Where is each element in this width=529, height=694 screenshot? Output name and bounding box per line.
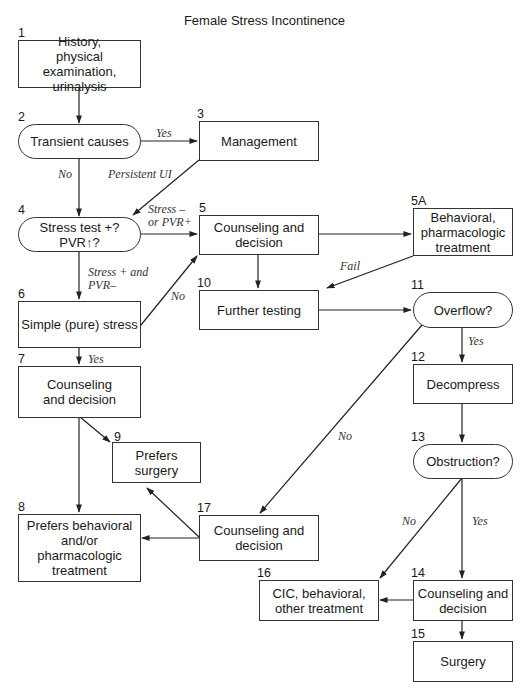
node-9-prefers-surgery: Prefers surgery <box>112 442 201 483</box>
node-7-counseling: Counseling and decision <box>18 366 141 418</box>
node-10-number: 10 <box>197 276 211 290</box>
edge-label-13-16: No <box>402 515 416 528</box>
edge-label-5a-10: Fail <box>340 260 360 273</box>
edge-label-2-4: No <box>58 168 72 181</box>
node-7-number: 7 <box>18 352 25 366</box>
node-17-number: 17 <box>197 501 211 515</box>
edge-13-16 <box>380 478 462 578</box>
edge-label-11-17: No <box>338 430 352 443</box>
node-11-number: 11 <box>411 278 424 292</box>
edge-11-17 <box>260 325 422 513</box>
node-12-number: 12 <box>411 350 425 364</box>
node-14-number: 14 <box>411 566 425 580</box>
node-16-cic-behavioral: CIC, behavioral, other treatment <box>259 580 379 621</box>
node-12-decompress: Decompress <box>413 364 513 404</box>
node-4-stress-test: Stress test +? PVR↑? <box>18 217 141 252</box>
edge-17-9 <box>147 488 199 537</box>
node-13-obstruction: Obstruction? <box>413 444 513 479</box>
node-8-prefers-behavioral: Prefers behavioral and/or pharmacologic … <box>18 514 141 582</box>
node-5-counseling: Counseling and decision <box>199 215 319 255</box>
edge-label-6-7: Yes <box>88 353 104 366</box>
node-10-further-testing: Further testing <box>199 290 319 330</box>
edge-label-13-14: Yes <box>472 515 488 528</box>
node-15-surgery: Surgery <box>413 641 513 682</box>
node-17-counseling: Counseling and decision <box>199 515 319 561</box>
edge-label-4-6: Stress + and PVR– <box>88 266 148 292</box>
node-3-number: 3 <box>197 107 204 121</box>
edge-7-9 <box>80 417 110 442</box>
node-6-simple-stress: Simple (pure) stress <box>18 301 141 348</box>
node-3-management: Management <box>199 121 319 161</box>
edge-label-6-5: No <box>171 290 185 303</box>
edge-label-3-4: Persistent UI <box>108 168 172 181</box>
edge-label-2-3: Yes <box>156 127 172 140</box>
edge-label-4-5: Stress – or PVR+ <box>148 203 192 229</box>
node-2-transient-causes: Transient causes <box>18 124 141 159</box>
node-5a-number: 5A <box>411 194 426 208</box>
node-14-counseling: Counseling and decision <box>413 580 513 621</box>
node-13-number: 13 <box>411 430 425 444</box>
node-5a-behavioral-treatment: Behavioral, pharmacologic treatment <box>413 208 513 256</box>
node-5-number: 5 <box>199 201 206 215</box>
node-6-number: 6 <box>18 287 25 301</box>
node-15-number: 15 <box>411 627 425 641</box>
edge-label-11-12: Yes <box>468 335 484 348</box>
node-1-history-exam: History, physical examination, urinalysi… <box>18 40 141 88</box>
node-2-number: 2 <box>18 110 25 124</box>
node-11-overflow: Overflow? <box>413 292 513 328</box>
node-16-number: 16 <box>257 566 271 580</box>
node-4-number: 4 <box>18 203 25 217</box>
node-8-number: 8 <box>18 500 25 514</box>
edge-6-5 <box>141 256 197 325</box>
